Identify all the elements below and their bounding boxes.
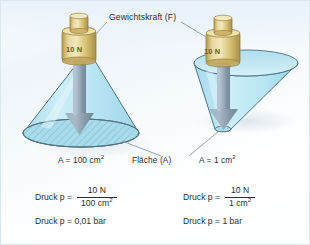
right-fraction: 10 N 1 cm2 [225, 186, 255, 207]
left-weight [62, 13, 96, 65]
left-fraction-denominator: 100 cm2 [77, 198, 117, 208]
area-annotation-label: Fläche (A) [132, 155, 171, 165]
right-fraction-numerator: 10 N [227, 186, 253, 196]
left-area-value: A = 100 cm2 [58, 155, 104, 165]
right-result: Druck p = 1 bar [183, 216, 255, 226]
right-formula-row: Druck p = 10 N 1 cm2 [183, 184, 255, 210]
right-fraction-denominator: 1 cm2 [225, 198, 255, 208]
left-area-text: A = 100 cm [58, 155, 101, 165]
right-denominator-text: 1 cm [229, 198, 248, 208]
leader-area-right [189, 131, 219, 156]
right-weight [206, 15, 240, 67]
right-area-value: A = 1 cm2 [199, 155, 236, 165]
left-formula-block: Druck p = 10 N 100 cm2 Druck p = 0,01 ba… [35, 184, 117, 226]
right-area-exponent: 2 [232, 153, 236, 160]
leader-force-left [95, 22, 107, 35]
right-denominator-exponent: 2 [248, 196, 251, 203]
left-fraction: 10 N 100 cm2 [77, 186, 117, 207]
left-result: Druck p = 0,01 bar [35, 216, 117, 226]
right-weight-label: 10 N [204, 47, 220, 56]
pressure-diagram: 10 N 10 N Gewichtskraft (F) Fläche (A) A… [0, 0, 310, 245]
left-formula-lead: Druck p = [35, 192, 72, 202]
right-area-text: A = 1 cm [199, 155, 232, 165]
left-area-exponent: 2 [101, 153, 105, 160]
leader-force-right [181, 22, 206, 37]
right-formula-lead: Druck p = [183, 192, 220, 202]
force-annotation-label: Gewichtskraft (F) [109, 12, 176, 22]
left-denominator-text: 100 cm [81, 198, 109, 208]
left-weight-label: 10 N [66, 45, 82, 54]
left-denominator-exponent: 2 [109, 196, 112, 203]
left-formula-row: Druck p = 10 N 100 cm2 [35, 184, 117, 210]
left-fraction-numerator: 10 N [84, 186, 110, 196]
right-formula-block: Druck p = 10 N 1 cm2 Druck p = 1 bar [183, 184, 255, 226]
